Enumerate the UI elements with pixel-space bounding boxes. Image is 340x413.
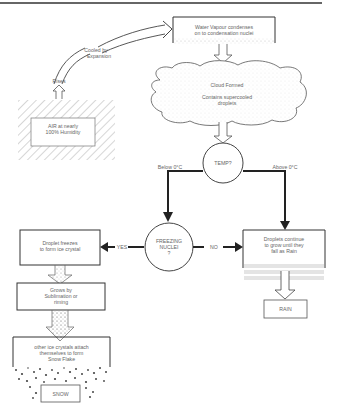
snow-label: SNOW xyxy=(41,391,80,397)
below-branch-line xyxy=(168,171,203,213)
above-branch-line xyxy=(243,171,285,222)
vapour-label: Water Vapour condenses on to condensatio… xyxy=(173,24,275,36)
vapour-to-cloud-arrow xyxy=(214,44,232,63)
yes-label: YES xyxy=(115,244,129,250)
above-label: Above 0°C xyxy=(270,164,300,170)
attach-label: other ice crystals attach themselves to … xyxy=(13,344,110,363)
below-label: Below 0°C xyxy=(155,164,185,170)
air-label: AIR at nearly 100% Humidity xyxy=(31,123,95,135)
freezing-label: FREEZING NUCLEI ? xyxy=(149,238,189,257)
freezes-label: Droplet freezes to form ice crystal xyxy=(20,240,100,252)
rises-label: Rises xyxy=(44,78,74,84)
temp-label: TEMP? xyxy=(203,160,243,166)
grows-label: Grows by Sublimation or riming xyxy=(17,287,105,306)
freezes-to-grows-arrow xyxy=(48,265,72,284)
cooled-label: Cooled by Expansion xyxy=(76,47,116,59)
no-label: NO xyxy=(206,244,222,250)
rain-label: RAIN xyxy=(264,306,307,312)
continue-label: Droplets continue to grow until they fal… xyxy=(243,236,325,255)
cloud-label: Cloud Formed Contains supercooled drople… xyxy=(172,82,282,107)
rises-arrow xyxy=(53,85,65,99)
